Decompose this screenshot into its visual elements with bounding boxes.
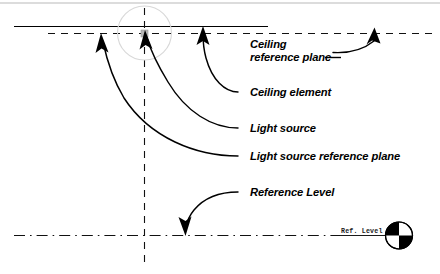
light-source-reference-plane-arrowhead	[96, 33, 109, 53]
ceiling-reference-plane-label-line2: reference plane	[250, 51, 331, 63]
diagram-canvas: Light source and ceiling reference plane…	[0, 0, 440, 274]
reference-level-label: Reference Level	[250, 186, 335, 198]
light-source-label: Light source	[250, 122, 316, 134]
light-source-leader	[147, 38, 238, 128]
ceiling-element-label: Ceiling element	[250, 86, 333, 98]
light-source-reference-plane-label: Light source reference plane	[250, 150, 400, 162]
callout-light-source-reference-plane[interactable]: Light source reference plane	[96, 33, 401, 162]
level-symbol[interactable]: Ref. Level	[340, 222, 413, 249]
level-symbol-label: Ref. Level	[341, 228, 383, 235]
ceiling-reference-plane-label-line1: Ceiling	[250, 38, 287, 50]
callout-reference-level[interactable]: Reference Level	[179, 186, 336, 236]
reference-level-arrowhead	[179, 217, 192, 237]
light-source-reference-plane-leader	[103, 42, 238, 156]
reference-planes-diagram: Light source and ceiling reference plane…	[0, 0, 440, 274]
level-target-icon	[386, 222, 413, 249]
callout-light-source[interactable]: Light source	[140, 30, 316, 134]
callout-ceiling-reference-plane[interactable]: Ceiling reference plane	[250, 28, 381, 64]
reference-level-leader	[186, 192, 238, 227]
